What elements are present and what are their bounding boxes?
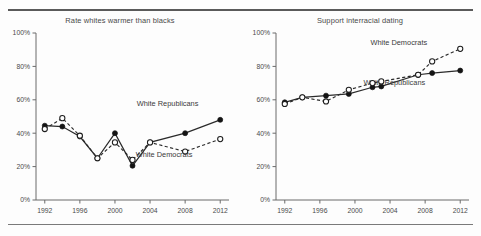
- x-tick-label: 1996: [312, 207, 327, 214]
- data-point-white-democrats: [370, 81, 375, 86]
- data-point-white-democrats: [379, 79, 384, 84]
- series-label-white-democrats: White Democrats: [370, 38, 427, 47]
- plot-area-left: 0%20%40%60%80%100%1992199620002004200820…: [0, 10, 240, 224]
- y-tick-label: 20%: [256, 163, 270, 170]
- x-tick-label: 2008: [418, 207, 433, 214]
- x-tick-label: 2008: [178, 207, 193, 214]
- data-point-white-democrats: [147, 140, 152, 145]
- data-point-white-democrats: [95, 156, 100, 161]
- x-tick-label: 2000: [107, 207, 122, 214]
- data-point-white-democrats: [430, 59, 435, 64]
- data-point-white-republicans: [130, 163, 135, 168]
- data-point-white-democrats: [346, 87, 351, 92]
- series-label-white-democrats: White Democrats: [136, 150, 193, 159]
- data-point-white-republicans: [324, 93, 329, 98]
- x-tick-label: 1992: [37, 207, 52, 214]
- x-tick-label: 1996: [72, 207, 87, 214]
- y-tick-label: 40%: [16, 130, 30, 137]
- y-tick-label: 40%: [256, 130, 270, 137]
- x-tick-label: 2012: [213, 207, 228, 214]
- y-tick-label: 80%: [256, 63, 270, 70]
- series-line-white-democrats: [45, 118, 220, 160]
- y-tick-label: 80%: [16, 63, 30, 70]
- y-tick-label: 60%: [16, 96, 30, 103]
- data-point-white-democrats: [416, 72, 421, 77]
- data-point-white-democrats: [323, 99, 328, 104]
- y-tick-label: 0%: [20, 196, 30, 203]
- x-tick-label: 2004: [382, 207, 397, 214]
- data-point-white-republicans: [60, 124, 65, 129]
- chart-panel-right: Support interracial dating 0%20%40%60%80…: [240, 10, 480, 224]
- data-point-white-democrats: [458, 46, 463, 51]
- x-tick-label: 1992: [277, 207, 292, 214]
- data-point-white-republicans: [430, 71, 435, 76]
- y-tick-label: 60%: [256, 96, 270, 103]
- figure-page: Rate whites warmer than blacks 0%20%40%6…: [0, 0, 481, 236]
- series-line-white-democrats: [285, 49, 460, 104]
- chart-panel-left: Rate whites warmer than blacks 0%20%40%6…: [0, 10, 240, 224]
- line-chart-left: 0%20%40%60%80%100%1992199620002004200820…: [0, 10, 240, 224]
- x-tick-label: 2012: [453, 207, 468, 214]
- y-tick-label: 20%: [16, 163, 30, 170]
- bottom-rule: [8, 224, 473, 225]
- x-tick-label: 2000: [347, 207, 362, 214]
- data-point-white-republicans: [218, 117, 223, 122]
- data-point-white-democrats: [218, 136, 223, 141]
- series-label-white-republicans: White Republicans: [137, 99, 199, 108]
- y-tick-label: 0%: [260, 196, 270, 203]
- y-tick-label: 100%: [13, 29, 30, 36]
- data-point-white-republicans: [112, 131, 117, 136]
- data-point-white-democrats: [60, 116, 65, 121]
- data-point-white-democrats: [300, 95, 305, 100]
- data-point-white-democrats: [77, 133, 82, 138]
- data-point-white-republicans: [183, 131, 188, 136]
- data-point-white-democrats: [42, 126, 47, 131]
- line-chart-right: 0%20%40%60%80%100%1992199620002004200820…: [240, 10, 480, 224]
- data-point-white-democrats: [130, 157, 135, 162]
- data-point-white-democrats: [112, 140, 117, 145]
- plot-area-right: 0%20%40%60%80%100%1992199620002004200820…: [240, 10, 480, 224]
- data-point-white-democrats: [282, 101, 287, 106]
- x-tick-label: 2004: [142, 207, 157, 214]
- data-point-white-republicans: [458, 68, 463, 73]
- y-tick-label: 100%: [253, 29, 270, 36]
